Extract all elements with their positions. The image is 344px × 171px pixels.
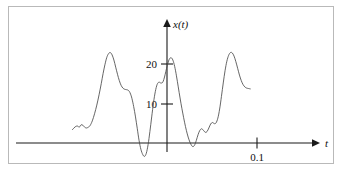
- x-tick-label-01: 0.1: [250, 151, 264, 163]
- plot-canvas: 20 10 0.1 x(t) t: [0, 0, 344, 171]
- y-axis-arrow-icon: [163, 19, 171, 27]
- y-axis-label: x(t): [172, 18, 189, 31]
- signal-plot-figure: 20 10 0.1 x(t) t: [0, 0, 344, 171]
- t-axis-arrow-icon: [312, 139, 320, 147]
- y-tick-label-20: 20: [146, 58, 158, 70]
- y-tick-label-10: 10: [146, 98, 158, 110]
- x-axis-label: t: [325, 137, 329, 149]
